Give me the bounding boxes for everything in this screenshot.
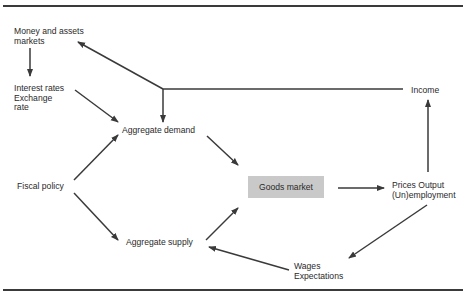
node-money-markets: Money and assets markets <box>14 27 84 46</box>
arrow-interest-to-demand <box>75 90 118 122</box>
arrow-wages-to-supply <box>209 247 289 270</box>
node-income: Income <box>411 86 439 96</box>
node-prices-output: Prices Output (Un)employment <box>392 181 456 200</box>
node-aggregate-demand: Aggregate demand <box>122 126 195 136</box>
node-interest-rates: Interest rates Exchange rate <box>14 84 64 113</box>
arrow-supply-to-goods <box>206 208 238 240</box>
arrow-fiscal-to-supply <box>74 193 118 240</box>
goods-market-label: Goods market <box>248 182 324 192</box>
arrow-prices-to-wages <box>349 205 427 258</box>
node-aggregate-supply: Aggregate supply <box>126 238 193 248</box>
arrow-income-to-money <box>78 42 163 89</box>
arrow-demand-to-goods <box>207 136 238 165</box>
node-wages-expectations: Wages Expectations <box>294 262 343 281</box>
node-goods-market: Goods market <box>248 176 324 198</box>
node-fiscal-policy: Fiscal policy <box>17 182 64 192</box>
arrow-fiscal-to-demand <box>74 135 118 180</box>
